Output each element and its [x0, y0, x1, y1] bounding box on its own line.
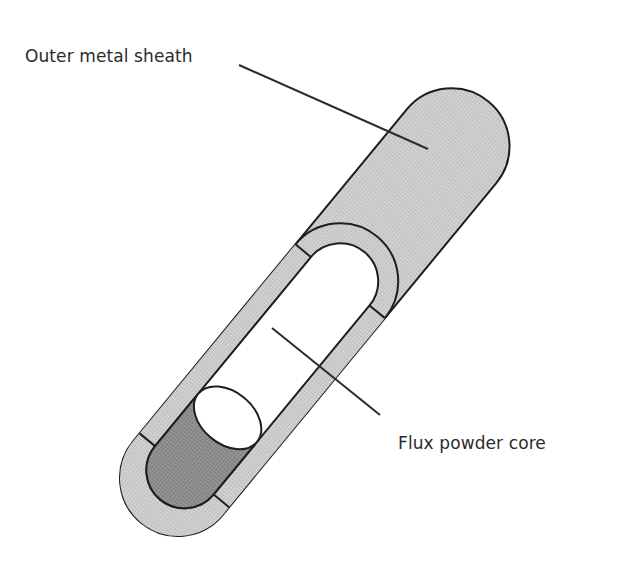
label-outer-sheath: Outer metal sheath	[25, 46, 193, 66]
leader-line-sheath	[239, 65, 428, 149]
flux-cored-wire-diagram	[0, 0, 617, 569]
label-flux-core: Flux powder core	[398, 433, 546, 453]
